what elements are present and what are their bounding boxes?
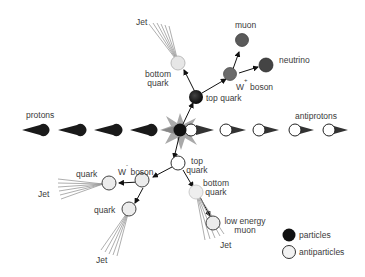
quark-bottom: [122, 202, 136, 216]
quark-left-label: quark: [76, 170, 97, 179]
legend-particles-label: particles: [299, 231, 331, 240]
jet-left: [58, 179, 103, 199]
top-quark-label: top quark: [206, 94, 241, 103]
muon-label: muon: [235, 21, 256, 30]
low-energy-muon: [206, 216, 220, 230]
jet-left-label: Jet: [38, 190, 49, 199]
top-quark-particle: [189, 90, 203, 104]
w-plus-boson: [224, 68, 237, 81]
low-energy-muon-label: low energy muon: [222, 217, 268, 235]
protons-label: protons: [26, 111, 54, 120]
quark-left: [102, 176, 116, 190]
antiprotons-label: antiprotons: [295, 112, 337, 121]
top-quark-lower-label: top quark: [186, 157, 208, 175]
jet-bottom-label: Jet: [96, 256, 107, 265]
jet-upper-label: Jet: [136, 18, 147, 27]
bottom-quark-upper: [171, 56, 185, 70]
bottom-quark-lower-label: bottom quark: [199, 179, 233, 197]
top-quark-antiparticle: [171, 156, 185, 170]
quark-bottom-label: quark: [94, 206, 115, 215]
jet-bottom-left: [101, 210, 129, 256]
muon-particle: [236, 34, 249, 47]
legend-particle-icon: [283, 229, 296, 242]
neutrino-particle: [259, 58, 273, 72]
w-plus-label: W+ boson: [236, 80, 273, 92]
legend-antiparticles-label: antiparticles: [299, 248, 344, 257]
w-minus-label: W- boson: [118, 165, 154, 177]
antiproton-beam: [185, 124, 348, 136]
jet-right-label: Jet: [220, 241, 231, 250]
neutrino-label: neutrino: [279, 56, 310, 65]
jet-upper: [149, 23, 178, 62]
bottom-quark-upper-label: bottom quark: [143, 70, 173, 88]
legend-antiparticle-icon: [283, 246, 296, 259]
